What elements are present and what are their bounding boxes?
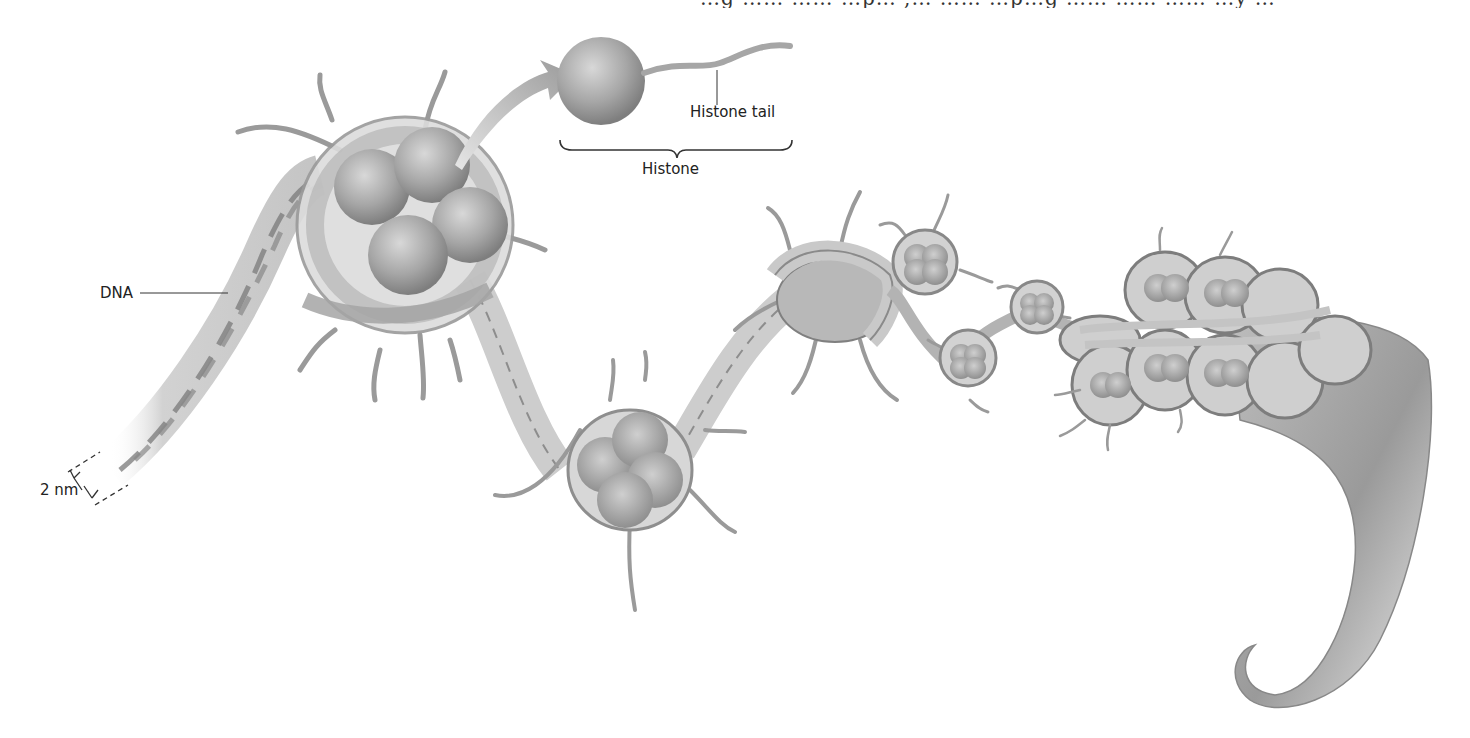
dna-double-helix xyxy=(110,175,322,470)
histone-tail xyxy=(644,45,790,73)
nucleosome-side xyxy=(735,192,897,400)
nucleosome-chain xyxy=(880,195,1080,412)
histone-brace xyxy=(560,140,792,158)
label-histone: Histone xyxy=(642,160,699,178)
label-dna: DNA xyxy=(100,284,133,302)
condensed-chromatin xyxy=(1055,228,1431,708)
label-histone-tail: Histone tail xyxy=(690,103,775,121)
chromatin-illustration: …g …… …… …p… ,… …… …p…g …… …… …… …y … xyxy=(0,0,1470,738)
scale-arrow-down-icon xyxy=(84,486,98,498)
histone-inset xyxy=(557,37,792,158)
histone-sphere xyxy=(557,37,645,125)
label-scale-2nm: 2 nm xyxy=(40,481,78,499)
clipped-body-text: …g …… …… …p… ,… …… …p…g …… …… …… …y … xyxy=(700,0,1470,8)
